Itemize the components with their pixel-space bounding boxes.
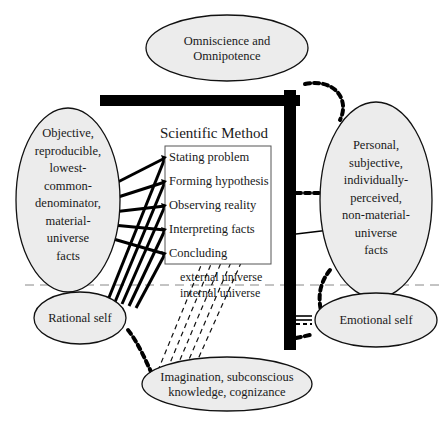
rational-self-label: Rational self bbox=[34, 311, 126, 326]
objective-line: Objective, bbox=[18, 125, 118, 143]
objective-line: facts bbox=[18, 248, 118, 266]
cross-horizontal-bar bbox=[100, 95, 300, 106]
cross-vertical-bar bbox=[284, 90, 296, 350]
imagination-line2: knowledge, cognizance bbox=[142, 385, 312, 400]
personal-facts-label: Personal, subjective, individually- perc… bbox=[326, 137, 426, 260]
objective-facts-label: Objective, reproducible, lowest- common-… bbox=[18, 125, 118, 265]
personal-line: Personal, bbox=[326, 137, 426, 155]
personal-line: subjective, bbox=[326, 155, 426, 173]
omniscience-line1: Omniscience and bbox=[167, 34, 287, 49]
objective-line: common- bbox=[18, 178, 118, 196]
personal-line: non-material- bbox=[326, 207, 426, 225]
objective-line: reproducible, bbox=[18, 143, 118, 161]
personal-line: facts bbox=[326, 242, 426, 260]
step-forming-hypothesis: Forming hypothesis bbox=[169, 174, 269, 189]
external-universe-label: external universe bbox=[180, 271, 262, 284]
imagination-label: Imagination, subconscious knowledge, cog… bbox=[142, 370, 312, 400]
omniscience-line2: Omnipotence bbox=[167, 49, 287, 64]
scientific-method-title: Scientific Method bbox=[160, 125, 268, 142]
personal-line: individually- bbox=[326, 172, 426, 190]
omniscience-label: Omniscience and Omnipotence bbox=[167, 34, 287, 64]
objective-line: lowest- bbox=[18, 160, 118, 178]
double-line-connector bbox=[296, 316, 312, 324]
personal-line: perceived, bbox=[326, 190, 426, 208]
emotional-self-label: Emotional self bbox=[316, 313, 436, 328]
internal-universe-label: internal universe bbox=[180, 287, 260, 300]
step-interpreting-facts: Interpreting facts bbox=[169, 222, 255, 237]
objective-line: universe bbox=[18, 230, 118, 248]
step-observing-reality: Observing reality bbox=[169, 198, 256, 213]
personal-line: universe bbox=[326, 225, 426, 243]
imagination-line1: Imagination, subconscious bbox=[142, 370, 312, 385]
objective-line: material- bbox=[18, 213, 118, 231]
step-concluding: Concluding bbox=[169, 246, 227, 261]
step-stating-problem: Stating problem bbox=[169, 150, 249, 165]
objective-line: denominator, bbox=[18, 195, 118, 213]
